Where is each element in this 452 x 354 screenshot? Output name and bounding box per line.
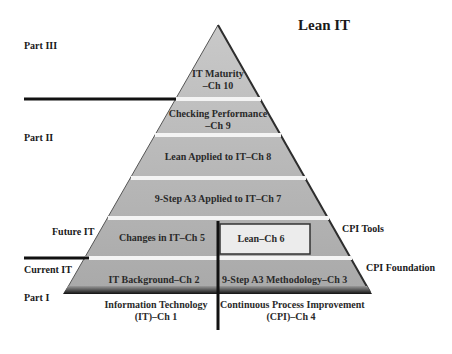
foundation-text: Continuous Process Improvement <box>220 299 362 311</box>
level-text: –Ch 10 <box>178 80 258 92</box>
diagram-title: Lean IT <box>298 17 350 34</box>
foundation-cpi: Continuous Process Improvement (CPI)–Ch … <box>220 299 362 323</box>
level-text: –Ch 9 <box>158 120 278 132</box>
part1-label: Part I <box>24 292 49 303</box>
level-a3-methodology: 9-Step A3 Methodology–Ch 3 <box>222 274 346 286</box>
foundation-it: Information Technology (IT)–Ch 1 <box>96 299 216 323</box>
cpi-foundation-label: CPI Foundation <box>366 262 435 273</box>
cpi-tools-label: CPI Tools <box>342 223 384 234</box>
level-it-maturity: IT Maturity –Ch 10 <box>178 68 258 92</box>
level-text: Checking Performance <box>158 108 278 120</box>
foundation-text: Information Technology <box>96 299 216 311</box>
level-a3-applied: 9-Step A3 Applied to IT–Ch 7 <box>118 193 318 205</box>
part2-label: Part II <box>24 132 53 143</box>
level-lean-applied: Lean Applied to IT–Ch 8 <box>138 151 298 163</box>
level-changes-in-it: Changes in IT–Ch 5 <box>108 232 216 244</box>
part3-label: Part III <box>24 40 57 51</box>
foundation-text: (CPI)–Ch 4 <box>220 311 362 323</box>
future-it-label: Future IT <box>52 226 94 237</box>
level-checking-performance: Checking Performance –Ch 9 <box>158 108 278 132</box>
level-lean-ch6: Lean–Ch 6 <box>222 233 300 245</box>
level-text: IT Maturity <box>178 68 258 80</box>
level-it-background: IT Background–Ch 2 <box>92 274 216 286</box>
current-it-label: Current IT <box>24 264 72 275</box>
foundation-text: (IT)–Ch 1 <box>96 311 216 323</box>
